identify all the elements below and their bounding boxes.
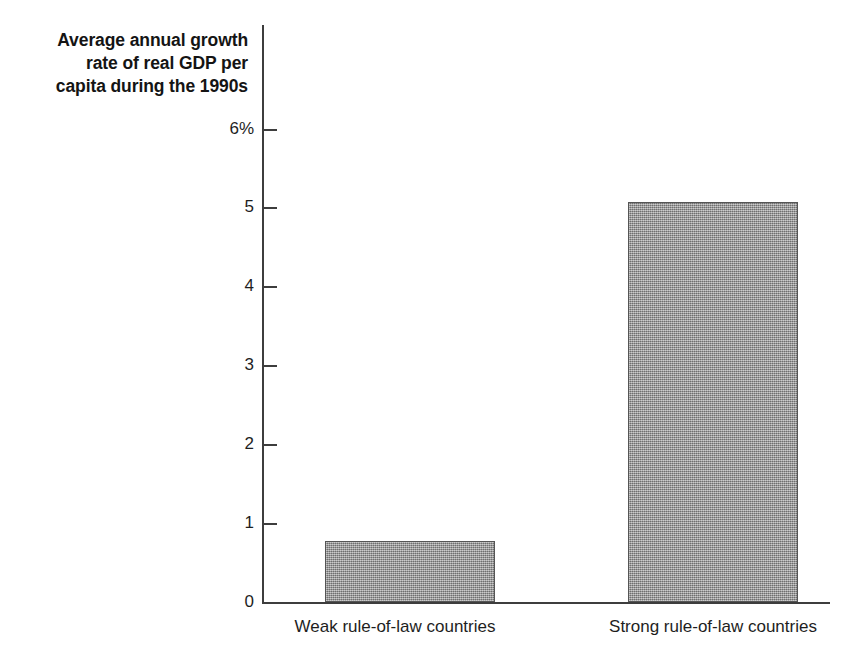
y-tick-1: 1 xyxy=(264,523,277,525)
bar-weak-rule-of-law xyxy=(325,541,495,602)
y-tick-label-0: 0 xyxy=(184,593,254,610)
y-tick-label-5: 5 xyxy=(184,198,254,215)
y-tick-label-2: 2 xyxy=(184,435,254,452)
y-tick-3: 3 xyxy=(264,365,277,367)
x-axis-line xyxy=(262,602,830,604)
bar-chart: Average annual growth rate of real GDP p… xyxy=(0,0,854,658)
chart-title: Average annual growth rate of real GDP p… xyxy=(18,29,248,98)
y-tick-label-1: 1 xyxy=(184,514,254,531)
y-axis-line xyxy=(262,25,264,604)
x-category-label-strong: Strong rule-of-law countries xyxy=(548,617,854,637)
bar-strong-rule-of-law xyxy=(628,202,798,602)
x-category-label-weak: Weak rule-of-law countries xyxy=(230,617,560,637)
y-tick-2: 2 xyxy=(264,444,277,446)
y-tick-label-3: 3 xyxy=(184,356,254,373)
y-tick-6: 6% xyxy=(264,129,277,131)
plot-area: 6% 5 4 3 2 1 0 Weak rule-of-law countrie… xyxy=(262,25,830,604)
y-tick-4: 4 xyxy=(264,286,277,288)
y-tick-label-6: 6% xyxy=(184,120,254,137)
y-tick-label-4: 4 xyxy=(184,277,254,294)
y-tick-5: 5 xyxy=(264,207,277,209)
